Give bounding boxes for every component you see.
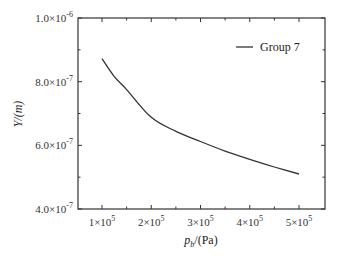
legend-label: Group 7 bbox=[260, 40, 300, 54]
x-tick-label: 5×105 bbox=[286, 214, 313, 228]
x-tick-label: 3×105 bbox=[187, 214, 214, 228]
line-chart: 1×1052×1053×1054×1055×105 4.0×10-76.0×10… bbox=[0, 0, 340, 263]
x-tick-label: 1×105 bbox=[89, 214, 116, 228]
y-tick-label: 4.0×10-7 bbox=[35, 201, 73, 215]
y-axis-label: Y/(m) bbox=[11, 101, 25, 128]
x-tick-label: 4×105 bbox=[236, 214, 263, 228]
y-tick-label: 1.0×10-6 bbox=[35, 10, 73, 24]
series-line-group-7 bbox=[102, 59, 299, 174]
y-tick-label: 6.0×10-7 bbox=[35, 137, 73, 151]
series-lines bbox=[102, 59, 299, 174]
y-tick-label: 8.0×10-7 bbox=[35, 74, 73, 88]
x-axis-label: pb/(Pa) bbox=[183, 233, 217, 249]
x-tick-label: 2×105 bbox=[138, 214, 165, 228]
legend: Group 7 bbox=[236, 40, 300, 54]
